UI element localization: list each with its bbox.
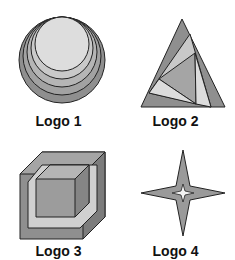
nested-triangles-icon xyxy=(117,0,235,130)
logo-1-cell: Logo 1 xyxy=(0,0,117,130)
nested-cubes-icon xyxy=(0,130,117,260)
four-point-star-icon xyxy=(117,130,235,260)
logo-1-label: Logo 1 xyxy=(0,113,117,129)
nested-circles-icon xyxy=(0,0,117,130)
logo-4-label: Logo 4 xyxy=(117,243,234,259)
logo-3-label: Logo 3 xyxy=(0,243,117,259)
logo-3-cell: Logo 3 xyxy=(0,130,117,260)
logo-2-label: Logo 2 xyxy=(117,113,234,129)
logo-4-cell: Logo 4 xyxy=(117,130,234,260)
logo-2-cell: Logo 2 xyxy=(117,0,234,130)
